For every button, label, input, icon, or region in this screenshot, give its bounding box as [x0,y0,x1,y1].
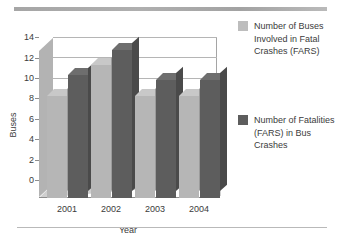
bottom-divider-rule [17,227,327,228]
legend-entry-buses[interactable]: Number of Buses Involved in Fatal Crashe… [238,20,338,58]
bar-series-group [39,37,217,198]
bar-front-face [179,96,199,198]
x-axis-tick-labels: 2001 2002 2003 2004 [39,204,221,218]
y-tick-10: 10 [12,74,34,83]
bar-front-face [47,96,67,198]
legend-label-fatalities: Number of Fatalities (FARS) in Bus Crash… [254,114,338,152]
x-tick-2004: 2004 [177,204,221,214]
y-axis-title: Buses [8,105,18,145]
chart-page: 14 12 10 8 6 4 2 0 Buses [0,0,341,236]
x-tick-2002: 2002 [89,204,133,214]
bar-2002-buses[interactable] [91,65,111,198]
bar-2002-fatalities[interactable] [112,50,132,198]
bar-2004-fatalities[interactable] [200,80,220,198]
y-tick-14: 14 [12,33,34,42]
bar-2001-fatalities[interactable] [68,75,88,198]
bar-2001-buses[interactable] [47,96,67,198]
bar-2004-buses[interactable] [179,96,199,198]
y-tick-0: 0 [12,176,34,185]
bar-chart: 14 12 10 8 6 4 2 0 Buses [0,16,232,230]
y-tick-12: 12 [12,54,34,63]
y-tick-2: 2 [12,156,34,165]
legend-entry-fatalities[interactable]: Number of Fatalities (FARS) in Bus Crash… [238,114,338,152]
bar-front-face [135,96,155,198]
x-tick-2001: 2001 [45,204,89,214]
bar-2003-fatalities[interactable] [156,80,176,198]
legend-swatch-icon-fatalities [238,115,248,125]
legend-label-buses: Number of Buses Involved in Fatal Crashe… [254,20,338,58]
bar-front-face [91,65,111,198]
bar-2003-buses[interactable] [135,96,155,198]
bar-side-face [220,67,227,191]
y-tick-8: 8 [12,94,34,103]
bar-front-face [68,75,88,198]
top-divider-rule [14,7,327,11]
bar-front-face [112,50,132,198]
legend-swatch-icon-buses [238,21,248,31]
bar-front-face [156,80,176,198]
x-tick-2003: 2003 [133,204,177,214]
chart-legend: Number of Buses Involved in Fatal Crashe… [238,16,338,216]
bar-front-face [200,80,220,198]
